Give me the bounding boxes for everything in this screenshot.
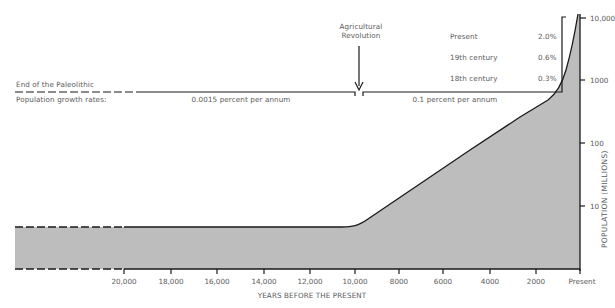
x-tick-label: 8000 bbox=[390, 277, 408, 286]
end-paleolithic-label: End of the Paleolithic bbox=[16, 80, 94, 89]
modern-rate-present: 2.0% bbox=[538, 32, 557, 41]
y-tick-label: 10 bbox=[590, 202, 599, 211]
x-tick-label: 4000 bbox=[481, 277, 499, 286]
x-tick-label: 20,000 bbox=[111, 277, 136, 286]
y-tick-label: 100 bbox=[590, 139, 604, 148]
agri-label-line2: Revolution bbox=[341, 31, 380, 40]
y-axis-title: POPULATION (MILLIONS) bbox=[600, 150, 609, 248]
x-tick-label: 10,000 bbox=[342, 277, 367, 286]
modern-rate-19th: 0.6% bbox=[538, 53, 557, 62]
modern-rate-18th: 0.3% bbox=[538, 74, 557, 83]
y-tick-label: 10,000 bbox=[590, 14, 615, 23]
x-tick-label: 2000 bbox=[527, 277, 545, 286]
x-tick-label: 6000 bbox=[434, 277, 452, 286]
y-tick-label: 1000 bbox=[590, 76, 608, 85]
x-tick-marks bbox=[124, 269, 580, 274]
x-tick-label: 16,000 bbox=[204, 277, 229, 286]
modern-period-19th: 19th century bbox=[450, 53, 498, 62]
x-tick-label: Present bbox=[569, 277, 596, 286]
modern-period-18th: 18th century bbox=[450, 74, 498, 83]
x-tick-label: 18,000 bbox=[158, 277, 183, 286]
rate-early-label: 0.0015 percent per annum bbox=[192, 95, 291, 104]
rate-mid-label: 0.1 percent per annum bbox=[413, 95, 498, 104]
growth-rates-label: Population growth rates: bbox=[16, 95, 107, 104]
agri-label-line1: Agricultural bbox=[340, 22, 383, 31]
x-axis-title: YEARS BEFORE THE PRESENT bbox=[258, 291, 367, 300]
x-tick-label: 14,000 bbox=[251, 277, 276, 286]
modern-period-present: Present bbox=[450, 32, 478, 41]
x-tick-label: 12,000 bbox=[297, 277, 322, 286]
